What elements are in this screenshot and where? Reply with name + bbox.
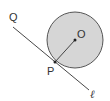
label-p: P (47, 65, 54, 77)
tangent-point (54, 61, 57, 64)
tangent-diagram: Q O P ℓ (0, 0, 110, 101)
label-q: Q (9, 11, 18, 23)
label-o: O (77, 28, 86, 40)
label-line: ℓ (90, 88, 95, 101)
